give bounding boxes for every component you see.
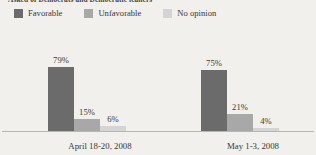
- bar-rect-april-unfavorable: [74, 119, 100, 131]
- bar-may-unfavorable: 21%: [227, 50, 253, 131]
- legend-swatch-unfavorable: [84, 9, 93, 18]
- bar-group-may: 75% 21% 4% May 1-3, 2008: [183, 26, 316, 155]
- legend-item-no-opinion: No opinion: [163, 9, 216, 18]
- legend-swatch-no-opinion: [163, 9, 172, 18]
- x-axis-baseline: [2, 131, 314, 132]
- bar-group-may-bars: 75% 21% 4%: [201, 50, 279, 131]
- x-axis-label-may: May 1-3, 2008: [183, 141, 316, 151]
- legend-swatch-favorable: [14, 9, 23, 18]
- legend-item-favorable: Favorable: [14, 9, 62, 18]
- bar-value-april-unfavorable: 15%: [79, 108, 95, 117]
- chart-legend: Favorable Unfavorable No opinion: [14, 9, 238, 18]
- legend-label-unfavorable: Unfavorable: [98, 9, 141, 18]
- legend-item-unfavorable: Unfavorable: [84, 9, 141, 18]
- bar-group-april-bars: 79% 15% 6%: [48, 50, 126, 131]
- chart-title: Asked of Democrats and Democratic leaner…: [8, 0, 308, 5]
- bar-rect-may-favorable: [201, 70, 227, 131]
- bar-value-may-unfavorable: 21%: [232, 103, 248, 112]
- plot-area: 79% 15% 6% April 18-20, 2008 75% 21%: [0, 26, 316, 155]
- bar-rect-april-favorable: [48, 67, 74, 131]
- bar-may-favorable: 75%: [201, 50, 227, 131]
- legend-label-favorable: Favorable: [28, 9, 62, 18]
- bar-value-april-favorable: 79%: [53, 56, 69, 65]
- bar-april-no-opinion: 6%: [100, 50, 126, 131]
- bar-value-may-favorable: 75%: [206, 59, 222, 68]
- bar-value-april-no-opinion: 6%: [107, 115, 118, 124]
- bar-april-favorable: 79%: [48, 50, 74, 131]
- bar-may-no-opinion: 4%: [253, 50, 279, 131]
- x-axis-label-april: April 18-20, 2008: [30, 141, 170, 151]
- bar-value-may-no-opinion: 4%: [260, 117, 271, 126]
- bar-rect-may-unfavorable: [227, 114, 253, 131]
- bar-april-unfavorable: 15%: [74, 50, 100, 131]
- legend-label-no-opinion: No opinion: [177, 9, 216, 18]
- bar-group-april: 79% 15% 6% April 18-20, 2008: [30, 26, 170, 155]
